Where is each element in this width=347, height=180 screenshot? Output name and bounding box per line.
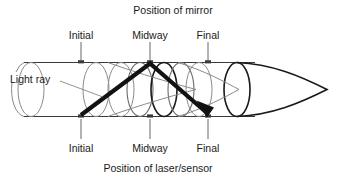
- fuselage-tube: [12, 63, 255, 117]
- section-ellipse-1: [18, 63, 44, 117]
- tick-bottom-midway: [147, 114, 153, 117]
- section-ellipse-5: [151, 63, 177, 117]
- bottom-leader-lines: [81, 119, 208, 139]
- top-label-initial: Initial: [69, 29, 94, 41]
- top-label-final: Final: [197, 29, 220, 41]
- tick-top-initial: [78, 60, 84, 63]
- light-ray-polyline: [81, 64, 207, 116]
- light-ray-fuselage-diagram: Position of mirror Initial Midway Final …: [0, 0, 347, 180]
- diagram-canvas: Position of mirror Initial Midway Final …: [0, 0, 347, 180]
- tick-top-final: [205, 60, 211, 63]
- title-position-of-mirror: Position of mirror: [133, 4, 213, 16]
- light-ray-label: Light ray: [10, 73, 51, 85]
- light-ray-leader-line: [60, 81, 103, 97]
- bottom-label-midway: Midway: [132, 142, 168, 154]
- top-leader-lines: [81, 42, 208, 60]
- bottom-label-final: Final: [197, 142, 220, 154]
- nose-bulkhead-ellipse: [224, 63, 250, 117]
- tube-left-cap-upper: [16, 63, 24, 73]
- top-label-midway: Midway: [132, 29, 168, 41]
- bottom-label-initial: Initial: [69, 142, 94, 154]
- title-position-of-laser-sensor: Position of laser/sensor: [103, 162, 213, 174]
